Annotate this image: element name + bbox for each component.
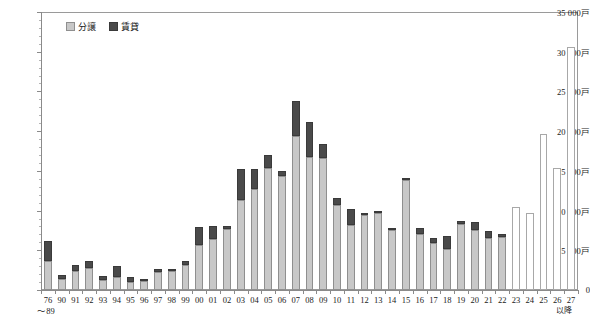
chart-legend: 分譲賃貸 [66,20,139,33]
bar-group [416,12,424,290]
bar-segment-bunjo [361,215,369,290]
x-tick-label: 23 [512,295,521,305]
x-tick-mark [55,290,56,294]
bar-segment-bunjo [264,168,272,290]
y-minor-tick [39,242,41,243]
x-tick-mark [192,290,193,294]
x-tick-mark [413,290,414,294]
bar-segment-bunjo [72,271,80,290]
legend-swatch-icon [109,22,118,31]
bar-segment-bunjo [237,200,245,290]
y-minor-tick [39,234,41,235]
x-tick-mark [371,290,372,294]
x-tick-mark [96,290,97,294]
bar-group [278,12,286,290]
y-tick-mark [37,211,41,212]
bar-segment-chintai [361,213,369,215]
bar-group [99,12,107,290]
y-minor-tick [39,20,41,21]
bar-segment-future [540,134,548,290]
bar-group [182,12,190,290]
bar-group [333,12,341,290]
bar-group [347,12,355,290]
bar-group [168,12,176,290]
bar-segment-bunjo [498,237,506,290]
bar-group [430,12,438,290]
y-minor-tick [39,274,41,275]
bar-group [237,12,245,290]
y-minor-tick [39,219,41,220]
x-tick-label: 90 [57,295,66,305]
x-tick-label: 12 [360,295,369,305]
y-tick-mark [37,131,41,132]
bar-segment-chintai [44,241,52,261]
bar-segment-chintai [374,211,382,213]
y-tick-mark [37,250,41,251]
x-axis-line [41,290,578,291]
x-tick-mark [427,290,428,294]
bar-segment-chintai [306,122,314,156]
x-tick-mark [261,290,262,294]
bar-group [540,12,548,290]
x-tick-label-sub: 〜89 [37,304,55,316]
bar-group [526,12,534,290]
x-tick-mark [385,290,386,294]
x-tick-mark [440,290,441,294]
y-minor-tick [39,179,41,180]
bar-group [498,12,506,290]
x-tick-label: 09 [319,295,328,305]
y-minor-tick [39,28,41,29]
x-tick-label: 15 [402,295,411,305]
bar-segment-chintai [333,198,341,205]
bar-segment-bunjo [402,180,410,290]
x-tick-mark [234,290,235,294]
x-tick-label: 03 [236,295,245,305]
bar-group [553,12,561,290]
bar-segment-bunjo [223,229,231,290]
x-tick-label: 21 [484,295,493,305]
x-tick-mark [151,290,152,294]
bar-segment-chintai [127,277,135,283]
y-minor-tick [39,203,41,204]
bar-segment-bunjo [306,157,314,290]
y-minor-tick [39,155,41,156]
y-tick-label: 0 [586,285,590,295]
x-tick-mark [564,290,565,294]
bar-segment-chintai [182,261,190,266]
bar-segment-future [567,47,575,290]
stacked-bar-chart: 05 000戸10 000戸15 000戸20 000戸25 000戸30 00… [0,0,590,319]
x-tick-mark [303,290,304,294]
bar-group [567,12,575,290]
bar-segment-chintai [209,226,217,240]
bar-group [264,12,272,290]
bar-segment-chintai [195,227,203,244]
x-tick-label: 95 [126,295,135,305]
x-tick-mark [495,290,496,294]
bar-segment-chintai [402,178,410,180]
bar-segment-bunjo [278,176,286,290]
y-tick-label: 5 000戸 [561,244,590,256]
legend-item: 賃貸 [109,20,139,33]
x-tick-label: 00 [195,295,204,305]
x-tick-mark [248,290,249,294]
x-tick-label: 22 [498,295,507,305]
y-minor-tick [39,115,41,116]
y-minor-tick [39,44,41,45]
bar-segment-chintai [140,279,148,281]
bar-segment-bunjo [333,205,341,290]
bar-segment-bunjo [44,261,52,290]
bar-segment-bunjo [319,158,327,290]
x-tick-label: 93 [99,295,108,305]
bar-group [195,12,203,290]
bar-segment-chintai [416,228,424,234]
x-tick-mark [275,290,276,294]
x-tick-label: 08 [305,295,314,305]
x-tick-label: 14 [388,295,397,305]
x-tick-label: 24 [526,295,535,305]
legend-swatch-icon [66,22,75,31]
x-tick-label: 25 [539,295,548,305]
x-tick-label: 94 [112,295,121,305]
bar-segment-bunjo [374,213,382,290]
x-tick-label: 07 [291,295,300,305]
bar-segment-bunjo [292,136,300,290]
